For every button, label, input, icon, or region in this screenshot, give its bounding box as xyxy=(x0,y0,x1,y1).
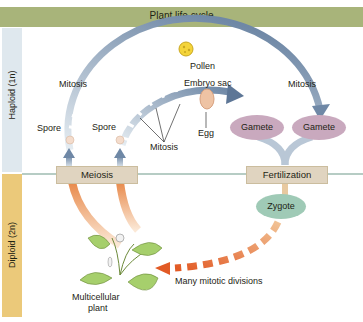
spore-left-icon xyxy=(66,136,74,144)
spore-left-label: Spore xyxy=(37,123,61,133)
pollen-icon xyxy=(179,42,193,56)
many-mitotic-label: Many mitotic divisions xyxy=(175,276,263,286)
mitosis-left-label: Mitosis xyxy=(59,79,87,89)
cycle-arrows xyxy=(0,0,363,322)
gamete-2-oval: Gamete xyxy=(292,115,346,140)
zygote-oval: Zygote xyxy=(256,194,306,219)
spore-right-icon xyxy=(116,136,124,144)
gamete-1-oval: Gamete xyxy=(230,115,284,140)
embryo-sac-label: Embryo sac xyxy=(184,78,232,88)
multicellular-label-1: Multicellular xyxy=(72,292,120,302)
fertilization-box: Fertilization xyxy=(246,166,328,184)
egg-label: Egg xyxy=(198,128,214,138)
embryo-sac-icon xyxy=(200,89,214,109)
mitosis-center-label: Mitosis xyxy=(150,142,178,152)
meiosis-box: Meiosis xyxy=(56,166,138,184)
mitosis-right-label: Mitosis xyxy=(288,79,316,89)
pollen-label: Pollen xyxy=(190,61,215,71)
arrow-head-plant xyxy=(155,262,170,275)
spore-right-label: Spore xyxy=(92,122,116,132)
multicellular-label-2: plant xyxy=(88,303,108,313)
